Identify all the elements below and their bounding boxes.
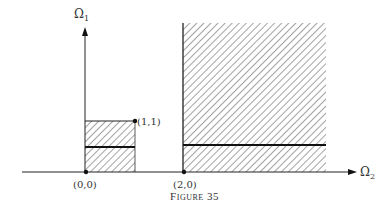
arrow-up-icon <box>82 27 88 36</box>
label-1-1: (1,1) <box>137 116 161 127</box>
arrow-right-icon <box>348 169 357 175</box>
figure-diagram: Ω1 Ω2 (0,0) (1,1) (2,0) <box>0 0 389 215</box>
large-region <box>183 23 326 172</box>
vertical-axis-label: Ω1 <box>74 7 89 23</box>
point-2-0 <box>182 170 186 174</box>
horizontal-axis-label: Ω2 <box>360 165 375 181</box>
point-origin <box>84 170 88 174</box>
figure-caption: Figure 35 <box>0 190 389 202</box>
label-origin: (0,0) <box>73 179 97 190</box>
small-box-region <box>85 121 135 172</box>
label-2-0: (2,0) <box>173 179 197 190</box>
